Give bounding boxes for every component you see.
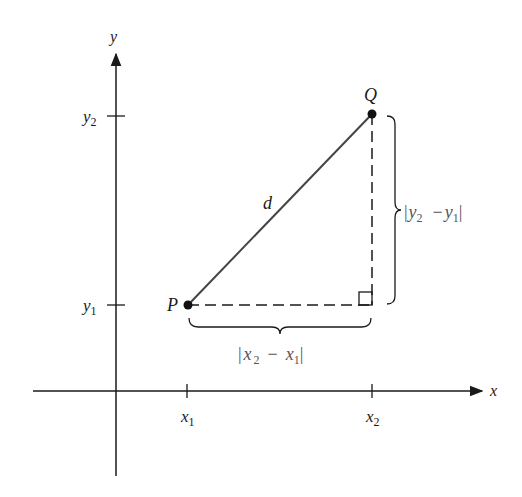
vertical-brace bbox=[387, 116, 401, 304]
point-p-label: P bbox=[166, 295, 178, 315]
x-axis-label: x bbox=[489, 382, 497, 399]
y-axis-label: y bbox=[108, 28, 118, 46]
tick-label-y1: y1 bbox=[81, 296, 97, 318]
vertical-brace-label: |y2−y1| bbox=[404, 202, 462, 225]
point-q bbox=[368, 110, 377, 119]
horizontal-brace bbox=[189, 318, 371, 334]
tick-label-x2: x2 bbox=[365, 407, 380, 429]
tick-label-y2: y2 bbox=[81, 107, 97, 129]
hypotenuse-line bbox=[188, 114, 372, 305]
point-q-label: Q bbox=[364, 85, 377, 105]
distance-diagram: y x x1 x2 y2 y1 d P Q |x2−x1| |y2−y1| bbox=[0, 0, 522, 497]
point-p bbox=[184, 301, 193, 310]
hypotenuse-label: d bbox=[263, 193, 273, 213]
right-angle-marker bbox=[359, 292, 372, 305]
tick-label-x1: x1 bbox=[180, 407, 195, 429]
horizontal-brace-label: |x2−x1| bbox=[238, 344, 303, 367]
